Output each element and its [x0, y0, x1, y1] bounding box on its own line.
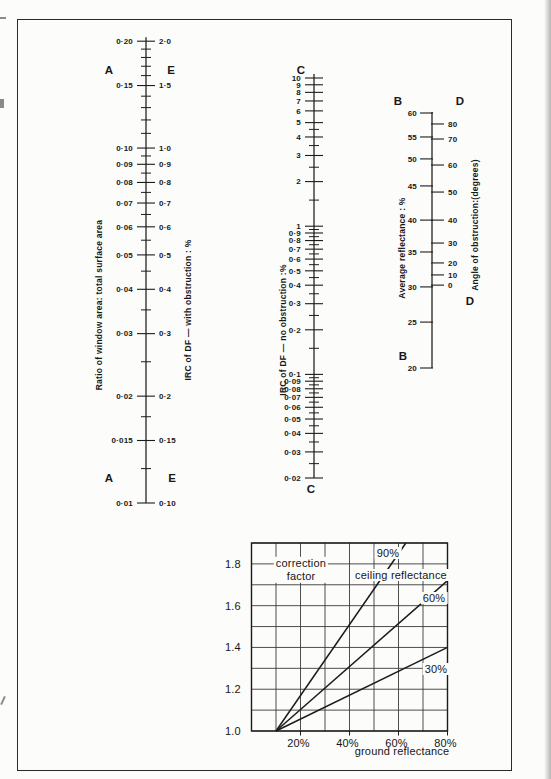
scale-d-title: Angle of obstruction:(degrees) [470, 159, 480, 291]
chart-inline-title: correction factor [274, 557, 328, 583]
scale-e-title: IRC of DF — with obstruction : % [183, 239, 193, 380]
scale-c-letter-top: C [297, 64, 305, 76]
y-tick-label: 1.6 [225, 600, 241, 612]
scale-bd-letter-d-mid: D [466, 295, 474, 307]
scale-ae-letter-a-top: A [105, 64, 113, 76]
y-tick-label: 1.0 [225, 725, 241, 737]
scale-c-letter-bottom: C [307, 483, 315, 495]
y-tick-label: 1.4 [225, 641, 241, 653]
series-label-30: 30% [423, 663, 450, 675]
y-tick-label: 1.8 [225, 558, 241, 570]
scale-ae-letter-a-bottom: A [105, 472, 113, 484]
scale-b-title: Average reflectance : % [397, 197, 407, 298]
x-tick-label: 20% [287, 737, 310, 749]
scale-ae-letter-e-bottom: E [168, 472, 176, 484]
series-label-90: 90% [375, 547, 402, 559]
scale-bd-letter-b-top: B [394, 95, 402, 107]
legend-ceiling-reflectance: ceiling reflectance [353, 569, 449, 581]
x-axis-title: ground reflectance [355, 745, 450, 757]
y-tick-label: 1.2 [225, 683, 241, 695]
scan-edge-shadow [544, 0, 551, 779]
scale-c-title: IRC of DF — no obstruction :% [278, 264, 288, 395]
series-label-60: 60% [421, 592, 448, 604]
scan-artifact [0, 17, 6, 19]
scan-artifact [0, 99, 4, 108]
scale-bd-letter-b-bottom: B [399, 350, 407, 362]
nomogram-page: 0·202·00·151·50·101·00·090·90·080·80·070… [0, 0, 551, 779]
chart-labels-layer: 1.01.21.41.61.820%40%60%80%correction fa… [0, 0, 551, 779]
scale-ae-letter-e-top: E [167, 64, 175, 76]
scale-a-title: Ratio of window area: total surface area [94, 220, 104, 391]
scale-bd-letter-d-top: D [456, 95, 464, 107]
